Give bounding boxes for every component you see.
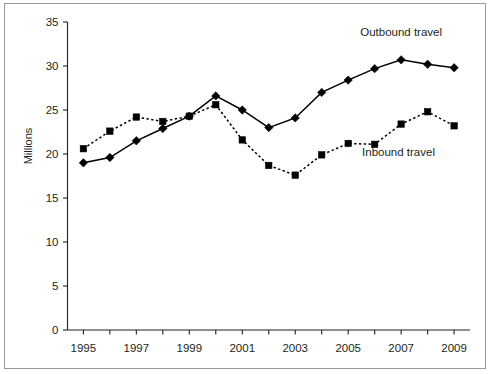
data-point-marker[interactable] — [186, 113, 192, 119]
data-point-marker[interactable] — [370, 64, 378, 72]
x-axis-tick-label: 1995 — [71, 342, 97, 354]
data-point-marker[interactable] — [266, 162, 272, 168]
data-point-marker[interactable] — [345, 140, 351, 146]
y-axis-tick-label: 15 — [46, 192, 59, 204]
data-point-marker[interactable] — [106, 153, 114, 161]
data-point-marker[interactable] — [450, 64, 458, 72]
y-axis-tick-label: 35 — [46, 16, 59, 28]
data-point-marker[interactable] — [292, 172, 298, 178]
y-axis-title: Millions — [22, 127, 34, 164]
data-point-marker[interactable] — [107, 128, 113, 134]
data-point-marker[interactable] — [132, 137, 140, 145]
data-point-marker[interactable] — [238, 106, 246, 114]
y-axis-tick-label: 0 — [52, 324, 58, 336]
x-axis-tick-label: 2005 — [335, 342, 361, 354]
data-point-marker[interactable] — [397, 56, 405, 64]
data-point-marker[interactable] — [451, 123, 457, 129]
data-point-marker[interactable] — [213, 102, 219, 108]
data-point-marker[interactable] — [319, 152, 325, 158]
x-axis-tick-label: 1999 — [177, 342, 203, 354]
y-axis-tick-label: 5 — [52, 280, 58, 292]
y-axis-tick-label: 25 — [46, 104, 59, 116]
x-axis-tick-label: 2009 — [441, 342, 467, 354]
x-axis-tick-label: 2003 — [282, 342, 308, 354]
data-point-marker[interactable] — [398, 121, 404, 127]
data-point-marker[interactable] — [265, 123, 273, 131]
y-axis-tick-label: 10 — [46, 236, 59, 248]
series-annotation-1: Outbound travel — [360, 26, 442, 38]
x-axis-tick-label: 2001 — [229, 342, 255, 354]
line-chart: 0510152025303519951997199920012003200520… — [0, 0, 491, 374]
data-point-marker[interactable] — [424, 109, 430, 115]
y-axis-tick-label: 30 — [46, 60, 59, 72]
data-point-marker[interactable] — [159, 124, 167, 132]
data-point-marker[interactable] — [239, 137, 245, 143]
data-point-marker[interactable] — [344, 76, 352, 84]
data-point-marker[interactable] — [80, 146, 86, 152]
y-axis-tick-label: 20 — [46, 148, 59, 160]
x-axis-tick-label: 2007 — [388, 342, 414, 354]
x-axis-tick-label: 1997 — [124, 342, 150, 354]
chart-figure: 0510152025303519951997199920012003200520… — [0, 0, 491, 374]
data-point-marker[interactable] — [79, 159, 87, 167]
data-point-marker[interactable] — [160, 118, 166, 124]
data-point-marker[interactable] — [423, 60, 431, 68]
data-point-marker[interactable] — [133, 114, 139, 120]
series-annotation-2: Inbound travel — [362, 146, 435, 158]
